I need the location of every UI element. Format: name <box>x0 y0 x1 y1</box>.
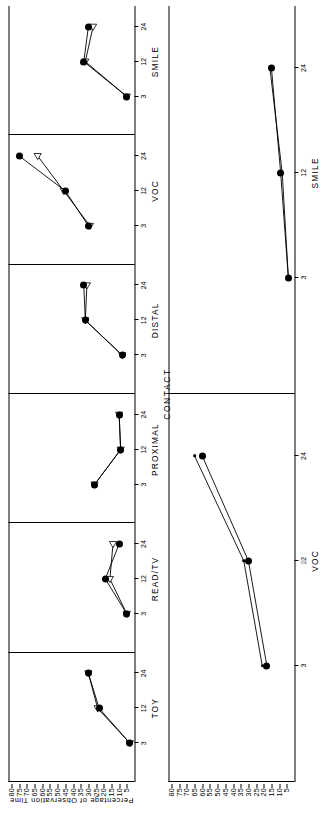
small-dot-marker <box>287 276 290 279</box>
figure-rotation-wrapper: 807570656055504540353025201510531224TOY3… <box>0 0 325 814</box>
y-axis-title: Percentage of Observation Time <box>9 796 133 805</box>
scan-artifact <box>300 559 305 564</box>
small-dot-marker <box>268 67 271 70</box>
group-axis-title: CONTACT <box>161 368 171 420</box>
chart-canvas: 807570656055504540353025201510531224TOY3… <box>0 0 325 814</box>
chart-figure: 807570656055504540353025201510531224TOY3… <box>0 0 325 814</box>
small-dot-marker <box>280 172 283 175</box>
